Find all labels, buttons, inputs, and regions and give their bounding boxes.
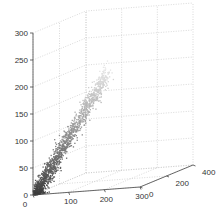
scatter-point — [84, 125, 85, 126]
scatter-point — [54, 139, 55, 140]
scatter-point — [102, 73, 103, 74]
scatter-point — [65, 152, 66, 153]
scatter-point — [75, 134, 76, 135]
scatter-point — [53, 149, 54, 150]
scatter-point — [42, 181, 43, 182]
scatter-point — [92, 89, 93, 90]
scatter-point — [87, 94, 88, 95]
z-tick-label: 200 — [15, 83, 29, 92]
scatter-point — [71, 131, 72, 132]
scatter-point — [45, 166, 46, 167]
scatter-point — [49, 159, 50, 160]
scatter-point — [54, 170, 55, 171]
scatter-point — [105, 82, 106, 83]
scatter-point — [48, 181, 49, 182]
scatter-point — [70, 125, 71, 126]
scatter-point — [106, 79, 107, 80]
z-tick-label: 300 — [15, 29, 29, 38]
scatter-point — [58, 154, 59, 155]
scatter-point — [61, 142, 62, 143]
scatter-point — [67, 142, 68, 143]
scatter-point — [98, 94, 99, 95]
scatter-point — [35, 184, 36, 185]
scatter-point — [71, 125, 72, 126]
scatter-point — [98, 100, 99, 101]
scatter-point — [50, 175, 51, 176]
scatter-point — [63, 148, 64, 149]
scatter-point — [87, 101, 88, 102]
scatter-point — [50, 165, 51, 166]
scatter-point — [39, 179, 40, 180]
scatter-point — [113, 79, 114, 80]
scatter-point — [57, 147, 58, 148]
scatter-point — [60, 140, 61, 141]
scatter-point — [42, 166, 43, 167]
scatter-point — [96, 94, 97, 95]
x-tick-label: 100 — [64, 197, 78, 206]
grid-line — [33, 119, 86, 141]
scatter-point — [79, 130, 80, 131]
scatter-point — [51, 173, 52, 174]
scatter-point — [105, 70, 106, 71]
scatter-point — [47, 192, 48, 193]
scatter-point — [70, 127, 71, 128]
scatter-point — [95, 84, 96, 85]
scatter-point — [55, 142, 56, 143]
scatter-point — [62, 136, 63, 137]
scatter-point — [77, 124, 78, 125]
grid-line — [86, 3, 193, 11]
scatter-point — [96, 79, 97, 80]
scatter-point — [91, 93, 92, 94]
scatter-point — [89, 98, 90, 99]
scatter-point — [93, 92, 94, 93]
scatter-point — [71, 122, 72, 123]
scatter-point — [55, 171, 56, 172]
scatter-point — [79, 125, 80, 126]
scatter-point — [92, 104, 93, 105]
scatter-point — [46, 171, 47, 172]
y-tick-label: 200 — [176, 179, 190, 188]
scatter-point — [101, 81, 102, 82]
scatter-point — [85, 113, 86, 114]
scatter-point — [95, 97, 96, 98]
scatter-point — [102, 86, 103, 87]
scatter-point — [58, 163, 59, 164]
scatter-point — [103, 78, 104, 79]
scatter-point — [77, 140, 78, 141]
scatter-point — [103, 73, 104, 74]
scatter-point — [61, 139, 62, 140]
scatter-point — [94, 89, 95, 90]
scatter-point — [50, 167, 51, 168]
scatter-point — [74, 112, 75, 113]
scatter-point — [105, 79, 106, 80]
scatter-point — [76, 131, 77, 132]
scatter-point — [111, 72, 112, 73]
scatter-point — [62, 158, 63, 159]
scatter-point — [84, 99, 85, 100]
scatter-point — [65, 134, 66, 135]
scatter-point — [68, 137, 69, 138]
scatter-point — [89, 120, 90, 121]
scatter-point — [61, 145, 62, 146]
scatter-point — [80, 119, 81, 120]
scatter-point — [98, 81, 99, 82]
scatter-point — [69, 143, 70, 144]
grid-line — [86, 57, 193, 65]
scatter-point — [105, 86, 106, 87]
scatter-point — [89, 106, 90, 107]
scatter-point — [66, 151, 67, 152]
scatter-point — [43, 173, 44, 174]
scatter-point — [57, 150, 58, 151]
scatter-point — [50, 181, 51, 182]
scatter-point — [105, 76, 106, 77]
scatter-point — [63, 140, 64, 141]
scatter-point — [42, 177, 43, 178]
z-tick-label: 0 — [24, 191, 29, 200]
scatter-point — [87, 106, 88, 107]
scatter-point — [59, 160, 60, 161]
scatter-point — [95, 109, 96, 110]
scatter-point — [58, 143, 59, 144]
z-tick-label: 100 — [15, 137, 29, 146]
scatter-point — [51, 170, 52, 171]
scatter-point — [46, 170, 47, 171]
